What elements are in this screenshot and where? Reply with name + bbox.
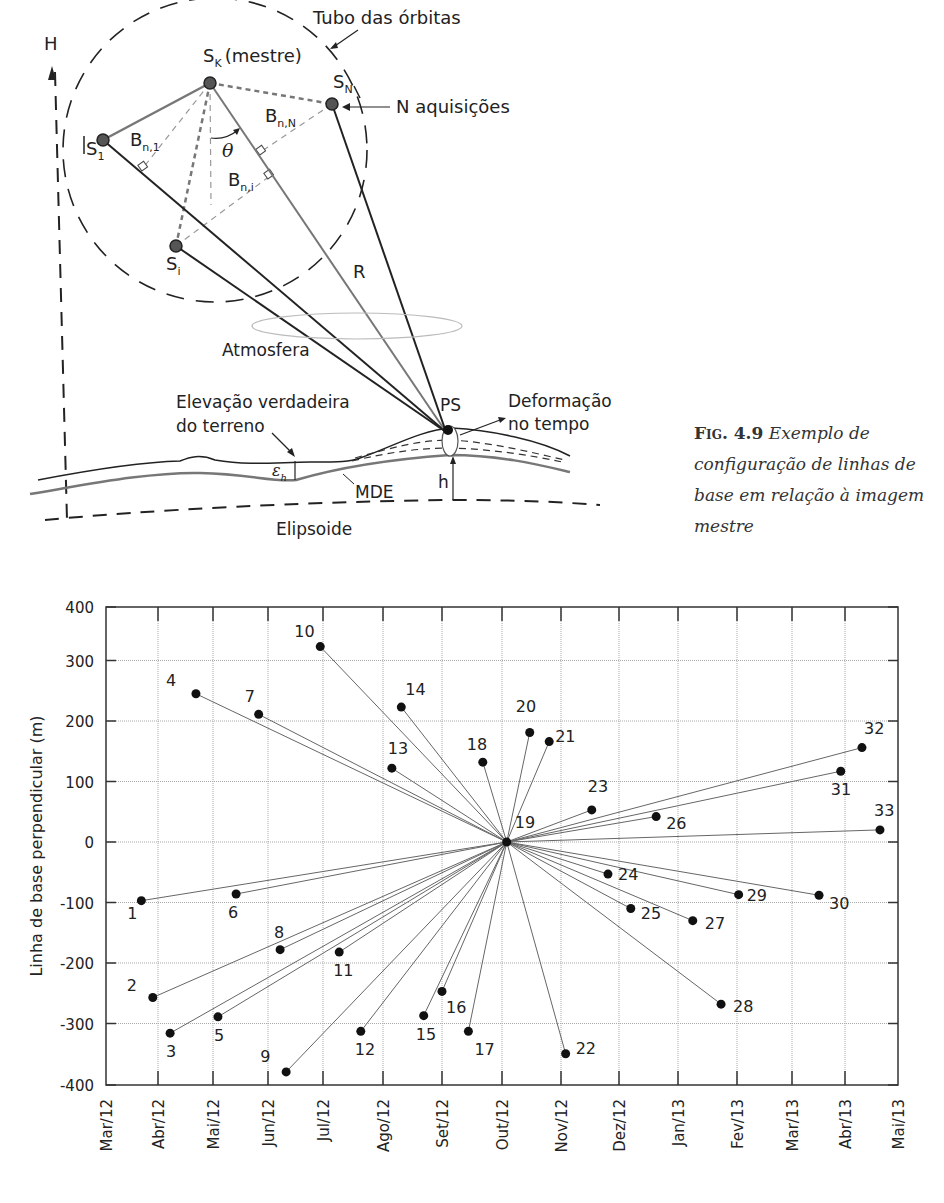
y-tick-label: -100: [60, 895, 94, 913]
x-tick-label: Mai/12: [205, 1099, 223, 1149]
true-elevation-label-1: Elevação verdadeira: [176, 392, 350, 412]
acquisition-point: [166, 1029, 175, 1038]
baseline-si: [176, 83, 210, 246]
y-tick-labels: 4003002001000-100-200-300-400: [60, 599, 94, 1095]
point-label: 8: [274, 923, 284, 942]
x-tick-label: Ago/12: [375, 1099, 393, 1152]
baseline-line: [401, 707, 506, 842]
x-tick-label: Abr/12: [150, 1099, 168, 1149]
x-tick-label: Fev/13: [729, 1099, 747, 1149]
ps-label: PS: [440, 395, 461, 415]
baseline-s1: [103, 83, 210, 140]
orbit-tube-circle: [63, 0, 367, 302]
point-label: 29: [747, 886, 767, 905]
baseline-line: [141, 842, 506, 901]
x-tick-label: Dez/12: [611, 1099, 629, 1152]
satellite-si: [170, 240, 182, 252]
h-axis-label: H: [44, 33, 58, 54]
point-label: 19: [515, 813, 535, 832]
y-tick-label: -200: [60, 955, 94, 973]
point-label: 11: [333, 961, 353, 980]
orbit-tube-arrow-icon: [330, 42, 338, 49]
theta-arc: [211, 130, 238, 138]
acquisition-point: [356, 1027, 365, 1036]
sn-tick: [354, 86, 360, 98]
point-label: 30: [829, 894, 849, 913]
figure-number: Fig. 4.9: [694, 423, 763, 443]
acquisition-point: [652, 812, 661, 821]
bn1-dash: [143, 83, 210, 168]
acquisition-point: [815, 891, 824, 900]
right-angle-1: [138, 161, 148, 171]
baseline-line: [507, 842, 693, 921]
x-tick-label: Jul/12: [315, 1099, 333, 1142]
h-label: h: [438, 472, 449, 492]
ellipsoid-line: [45, 500, 600, 520]
deformation-label-2: no tempo: [508, 414, 589, 434]
acquisition-point: [438, 987, 447, 996]
point-label: 15: [416, 1025, 436, 1044]
baseline-line: [468, 842, 506, 1031]
y-tick-label: 400: [65, 599, 94, 617]
mde-label: MDE: [355, 482, 394, 502]
satellite-sn: [326, 98, 338, 110]
x-tick-label: Jan/13: [670, 1099, 688, 1147]
bni-dash: [176, 176, 270, 246]
point-label: 12: [355, 1040, 375, 1059]
si-label: Si: [166, 253, 181, 278]
point-label: 10: [294, 622, 314, 641]
acquisition-point: [875, 825, 884, 834]
bni-label: Bn,i: [228, 169, 254, 194]
y-tick-label: 0: [84, 834, 94, 852]
x-tick-label: Jun/12: [260, 1099, 278, 1148]
point-label: 7: [245, 687, 255, 706]
range-label: R: [353, 261, 366, 282]
h-arrow-icon: [450, 456, 456, 464]
point-label: 1: [127, 904, 137, 923]
acquisition-point: [276, 945, 285, 954]
point-label: 24: [618, 865, 638, 884]
x-tick-label: Out/12: [494, 1099, 512, 1150]
x-tick-labels: Mar/12Abr/12Mai/12Jun/12Jul/12Ago/12Set/…: [98, 1099, 908, 1152]
point-label: 25: [641, 904, 661, 923]
acquisition-point: [213, 1012, 222, 1021]
acquisition-point: [857, 743, 866, 752]
point-label: 2: [127, 976, 137, 995]
point-label: 32: [864, 719, 884, 738]
y-axis-title: Linha de base perpendicular (m): [27, 715, 46, 976]
los-master: [210, 83, 446, 432]
x-tick-label: Mai/13: [890, 1099, 908, 1149]
acquisition-point: [137, 896, 146, 905]
mde-leader: [343, 474, 354, 484]
baseline-line: [286, 842, 507, 1072]
baseline-chart: 1234567891011121314151617181920212223242…: [27, 599, 908, 1152]
acquisition-point: [232, 890, 241, 899]
h-axis: [55, 72, 67, 520]
x-tick-label: Nov/12: [553, 1099, 571, 1152]
true-elevation-arrow: [272, 433, 292, 453]
bnN-label: Bn,N: [265, 105, 296, 130]
x-tick-label: Set/12: [434, 1099, 452, 1148]
baseline-line: [280, 842, 507, 950]
acquisition-point: [603, 870, 612, 879]
point-label: 21: [555, 727, 575, 746]
deformation-label-1: Deformação: [508, 391, 612, 411]
orbit-tube-label: Tubo das órbitas: [312, 7, 461, 28]
acquisition-point: [419, 1011, 428, 1020]
acquisition-point: [316, 642, 325, 651]
point-label: 3: [166, 1042, 176, 1061]
acquisition-point: [397, 703, 406, 712]
y-tick-label: -400: [60, 1077, 94, 1095]
y-tick-label: 100: [65, 774, 94, 792]
acquisition-point: [525, 728, 534, 737]
n-acquisitions-label: N aquisições: [396, 96, 510, 117]
satellite-s1: [97, 134, 109, 146]
acquisition-point: [836, 767, 845, 776]
acquisition-point: [478, 758, 487, 767]
true-elevation-label-2: do terreno: [176, 416, 265, 436]
baseline-connections: [141, 647, 880, 1072]
baseline-line: [507, 842, 566, 1054]
acquisition-point: [335, 948, 344, 957]
theta-label: θ: [222, 139, 234, 161]
y-tick-label: 300: [65, 653, 94, 671]
